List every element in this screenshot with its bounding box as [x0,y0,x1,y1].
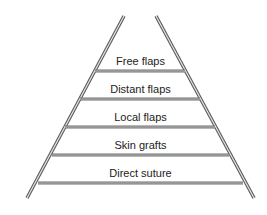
rung-label-distant-flaps: Distant flaps [0,83,267,96]
ladder-diagram [0,0,267,215]
rung-label-direct-suture: Direct suture [0,167,267,180]
rung-label-local-flaps: Local flaps [0,111,267,124]
rung-label-free-flaps: Free flaps [0,55,267,68]
rung-label-skin-grafts: Skin grafts [0,139,267,152]
